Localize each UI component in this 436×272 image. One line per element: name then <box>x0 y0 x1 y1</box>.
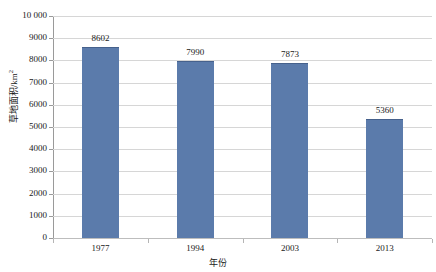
y-axis-title-superscript: 2 <box>7 70 14 73</box>
x-tick-mark <box>53 239 54 243</box>
x-axis-title: 年份 <box>0 256 436 269</box>
x-tick-mark <box>148 239 149 243</box>
bar-2013[interactable] <box>366 119 403 238</box>
x-tick-mark <box>432 239 433 243</box>
x-tick-mark <box>243 239 244 243</box>
x-tick-label-1977: 1977 <box>70 243 130 253</box>
bar-chart: 草地面积/km2 10 0009000800070006000500040003… <box>0 0 436 272</box>
bar-1994[interactable] <box>177 61 214 238</box>
bar-2003[interactable] <box>271 63 308 238</box>
y-tick-label: 10 000 <box>0 11 47 20</box>
y-axis-title: 草地面积/km2 <box>7 32 20 162</box>
x-tick-label-2013: 2013 <box>355 243 415 253</box>
y-tick-label: 4000 <box>0 144 47 153</box>
y-tick-label: 6000 <box>0 100 47 109</box>
y-tick-label: 2000 <box>0 189 47 198</box>
y-tick-label: 7000 <box>0 78 47 87</box>
plot-area <box>53 16 432 238</box>
bar-value-label: 5360 <box>355 105 415 115</box>
y-tick-label: 0 <box>0 233 47 242</box>
y-tick-label: 5000 <box>0 122 47 131</box>
bar-1977[interactable] <box>82 47 119 238</box>
bar-value-label: 8602 <box>70 33 130 43</box>
y-tick-label: 8000 <box>0 55 47 64</box>
y-tick-label: 1000 <box>0 211 47 220</box>
x-tick-label-1994: 1994 <box>165 243 225 253</box>
gridline <box>53 16 432 17</box>
bar-value-label: 7873 <box>260 49 320 59</box>
y-tick-label: 9000 <box>0 33 47 42</box>
y-tick-label: 3000 <box>0 166 47 175</box>
bar-value-label: 7990 <box>165 47 225 57</box>
x-tick-label-2003: 2003 <box>260 243 320 253</box>
x-tick-mark <box>337 239 338 243</box>
